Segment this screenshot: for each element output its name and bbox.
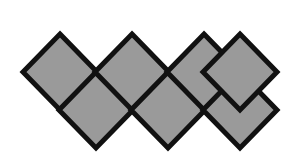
figure-canvas: Diamond strip net Zigzag strip of seven …	[0, 0, 294, 157]
diamond-net-figure: Diamond strip net Zigzag strip of seven …	[0, 0, 294, 157]
